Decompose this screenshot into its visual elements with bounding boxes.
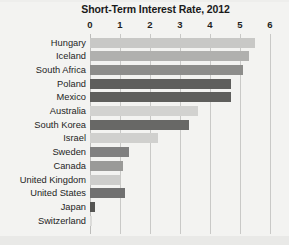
x-tick-label-3: 3 bbox=[177, 19, 182, 30]
category-label-hungary: Hungary bbox=[0, 37, 86, 49]
category-label-sweden: Sweden bbox=[0, 146, 86, 158]
category-label-switzerland: Switzerland bbox=[0, 215, 86, 227]
category-label-united-kingdom: United Kingdom bbox=[0, 174, 86, 186]
category-label-canada: Canada bbox=[0, 160, 86, 172]
x-tick-label-5: 5 bbox=[237, 19, 242, 30]
category-label-iceland: Iceland bbox=[0, 50, 86, 62]
x-tick-label-0: 0 bbox=[87, 19, 92, 30]
category-label-south-africa: South Africa bbox=[0, 64, 86, 76]
category-label-mexico: Mexico bbox=[0, 91, 86, 103]
category-label-united-states: United States bbox=[0, 187, 86, 199]
category-labels: HungaryIcelandSouth AfricaPolandMexicoAu… bbox=[0, 34, 289, 234]
category-label-south-korea: South Korea bbox=[0, 119, 86, 131]
x-tick-label-1: 1 bbox=[117, 19, 122, 30]
category-label-australia: Australia bbox=[0, 105, 86, 117]
x-axis-tick-labels: 0123456 bbox=[90, 0, 270, 34]
bottom-band bbox=[0, 236, 289, 245]
category-label-israel: Israel bbox=[0, 132, 86, 144]
category-label-japan: Japan bbox=[0, 201, 86, 213]
x-tick-label-6: 6 bbox=[267, 19, 272, 30]
chart-container: Short-Term Interest Rate, 2012 0123456 H… bbox=[0, 0, 289, 245]
category-label-poland: Poland bbox=[0, 78, 86, 90]
x-tick-label-2: 2 bbox=[147, 19, 152, 30]
x-tick-label-4: 4 bbox=[207, 19, 212, 30]
